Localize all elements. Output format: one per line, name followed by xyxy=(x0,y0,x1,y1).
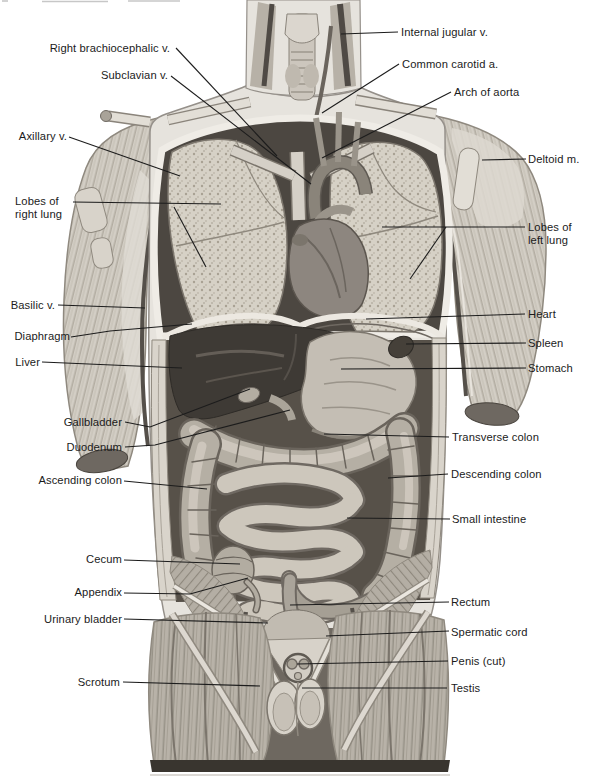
testis-right xyxy=(300,691,320,725)
penis-cut-cross-section xyxy=(284,654,312,682)
superior-vena-cava xyxy=(297,152,299,220)
label-axillary-v: Axillary v. xyxy=(19,130,67,143)
label-scrotum: Scrotum xyxy=(78,676,120,689)
left-thigh xyxy=(149,612,274,764)
label-spermatic-cord: Spermatic cord xyxy=(451,626,528,639)
label-ascending-colon: Ascending colon xyxy=(38,474,122,487)
label-heart: Heart xyxy=(528,308,556,321)
label-urinary-bladder: Urinary bladder xyxy=(44,613,122,626)
label-rectum: Rectum xyxy=(451,596,490,609)
thyroid-gland xyxy=(285,64,301,88)
cropped-print-artifact xyxy=(2,1,180,2)
label-appendix: Appendix xyxy=(75,586,122,599)
label-penis-cut: Penis (cut) xyxy=(451,655,506,668)
label-common-carotid-a: Common carotid a. xyxy=(402,58,498,71)
label-cecum: Cecum xyxy=(86,553,122,566)
label-arch-of-aorta: Arch of aorta xyxy=(454,86,519,99)
label-gallbladder: Gallbladder xyxy=(64,416,122,429)
label-transverse-colon: Transverse colon xyxy=(452,431,539,444)
label-liver: Liver xyxy=(15,356,40,369)
label-small-intestine: Small intestine xyxy=(452,513,526,526)
label-deltoid-m: Deltoid m. xyxy=(528,153,579,166)
label-right-brachiocephalic-v: Right brachiocephalic v. xyxy=(50,42,170,55)
label-descending-colon: Descending colon xyxy=(451,468,542,481)
label-subclavian-v: Subclavian v. xyxy=(101,69,168,82)
testis-left xyxy=(273,693,295,731)
label-lobes-of-left-lung: Lobes of left lung xyxy=(528,221,572,246)
label-basilic-v: Basilic v. xyxy=(11,299,55,312)
label-internal-jugular-v: Internal jugular v. xyxy=(401,26,488,39)
larynx xyxy=(285,14,319,43)
label-stomach: Stomach xyxy=(528,362,573,375)
label-spleen: Spleen xyxy=(528,337,563,350)
label-duodenum: Duodenum xyxy=(66,441,122,454)
anatomy-figure-page: Right brachiocephalic v. Subclavian v. A… xyxy=(0,0,594,782)
label-testis: Testis xyxy=(451,682,480,695)
label-lobes-of-right-lung: Lobes of right lung xyxy=(15,195,62,220)
heart xyxy=(289,219,368,318)
label-diaphragm: Diaphragm xyxy=(14,330,70,343)
bottom-cut-edge xyxy=(150,760,450,775)
